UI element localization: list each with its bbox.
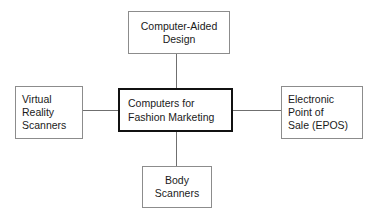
connector-hub-to-top (176, 53, 177, 89)
connector-hub-to-left (83, 110, 119, 111)
node-computer-aided-design[interactable]: Computer-Aided Design (128, 11, 230, 54)
node-body-scanners-label: Body Scanners (143, 174, 211, 200)
node-computers-for-fashion-marketing-label: Computers for Fashion Marketing (120, 96, 231, 124)
node-virtual-reality-scanners-label: Virtual Reality Scanners (16, 93, 82, 132)
node-computer-aided-design-label: Computer-Aided Design (129, 20, 229, 46)
node-electronic-point-of-sale[interactable]: Electronic Point of Sale (EPOS) (281, 86, 363, 139)
diagram-canvas: Computer-Aided Design Virtual Reality Sc… (0, 0, 378, 220)
node-computers-for-fashion-marketing[interactable]: Computers for Fashion Marketing (118, 88, 233, 132)
node-electronic-point-of-sale-label: Electronic Point of Sale (EPOS) (282, 93, 362, 132)
connector-hub-to-right (233, 110, 281, 111)
node-body-scanners[interactable]: Body Scanners (142, 166, 212, 208)
connector-hub-to-bottom (176, 131, 177, 167)
node-virtual-reality-scanners[interactable]: Virtual Reality Scanners (15, 86, 83, 139)
